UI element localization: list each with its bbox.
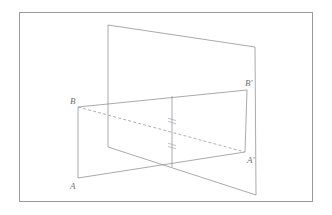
vertical-plane-right-edge xyxy=(255,47,256,195)
vertical-plane-bottom-edge xyxy=(108,147,256,195)
label-B: B xyxy=(70,96,76,106)
figure-canvas: A B A' B' xyxy=(0,0,332,215)
segments-group xyxy=(78,25,256,195)
label-B-prime: B' xyxy=(245,78,253,88)
horizontal-plane-edge-A1B1 xyxy=(245,90,247,152)
vertical-plane-top-edge xyxy=(108,25,255,47)
geometry-diagram: A B A' B' xyxy=(0,0,332,215)
label-A-prime: A' xyxy=(246,155,255,165)
horizontal-plane-edge-AA1 xyxy=(78,152,245,178)
outer-frame xyxy=(19,12,312,201)
label-A: A xyxy=(69,181,76,191)
horizontal-plane-edge-BB1 xyxy=(78,90,247,107)
diagonal-B-to-A1 xyxy=(78,107,245,152)
